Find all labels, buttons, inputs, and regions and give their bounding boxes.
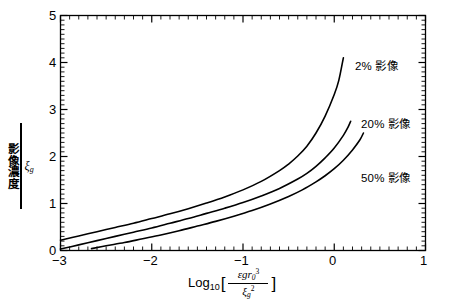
- x-axis-log-text: Log10: [188, 275, 220, 292]
- r-exponent: 3: [256, 267, 260, 276]
- series-label-2-percent: 2% 影像: [355, 57, 398, 73]
- x-axis-fraction: εgr03 ξg2: [228, 268, 268, 299]
- plot-frame: [61, 16, 426, 251]
- x-tick-label: 1: [420, 253, 427, 268]
- log-word: Log: [188, 275, 210, 290]
- series-label-50-percent: 50% 影像: [361, 169, 410, 185]
- chart-plot-area: [0, 0, 451, 308]
- log-base: 10: [210, 282, 220, 292]
- series-group: [61, 58, 364, 249]
- xi-subscript: g: [30, 165, 34, 174]
- x-tick-label: −1: [234, 253, 249, 268]
- y-tick-label: 3: [49, 102, 56, 117]
- y-tick-label: 4: [49, 55, 56, 70]
- x-axis-fraction-bar: [228, 283, 268, 285]
- y-axis-label-fraction-bar: [20, 123, 22, 209]
- bracket-open: [: [221, 274, 226, 294]
- y-axis-label-numerator: 影像濃度: [6, 143, 18, 189]
- epsilon-g-r: εgr: [238, 268, 252, 280]
- axis-ticks: [61, 16, 426, 251]
- x-axis-label: Log10 [ εgr03 ξg2 ]: [188, 268, 277, 299]
- x-tick-label: −2: [143, 253, 158, 268]
- series-line-2: [92, 133, 364, 249]
- series-label-20-percent: 20% 影像: [361, 115, 410, 131]
- x-axis-fraction-denominator: ξg2: [240, 285, 256, 299]
- x-axis-fraction-numerator: εgr03: [236, 268, 262, 282]
- series-line-0: [61, 58, 344, 240]
- xi-exponent: 2: [251, 284, 255, 293]
- x-tick-label: 0: [329, 253, 336, 268]
- x-tick-label: −3: [52, 253, 67, 268]
- y-tick-label: 5: [49, 8, 56, 23]
- y-axis-label-denominator: ξg: [25, 159, 34, 174]
- y-axis-label: 影像濃度 ξg: [6, 118, 52, 214]
- bracket-close: ]: [271, 274, 276, 294]
- figure-container: 5 4 3 2 1 0 −3 −2 −1 0 1 2% 影像 20% 影像 50…: [0, 0, 451, 308]
